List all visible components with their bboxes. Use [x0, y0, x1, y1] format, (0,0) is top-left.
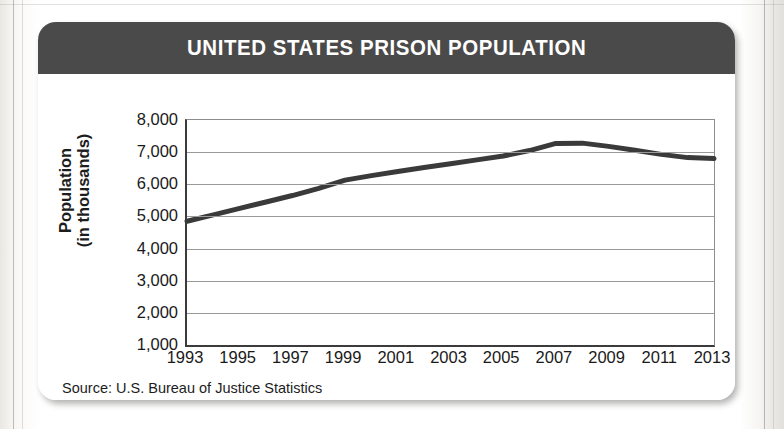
x-axis-tick-label: 2007: [536, 348, 573, 367]
chart-title: UNITED STATES PRISON POPULATION: [187, 35, 586, 61]
page-top-rule: [0, 4, 784, 5]
gridline: [187, 313, 714, 314]
page-edge-left: [13, 0, 14, 429]
chart-card: UNITED STATES PRISON POPULATION Populati…: [38, 22, 735, 400]
data-line-series: [187, 120, 714, 345]
x-axis-tick-label: 2009: [588, 348, 625, 367]
x-axis-tick-label: 2013: [694, 348, 731, 367]
y-axis-tick-label: 8,000: [100, 110, 178, 129]
y-axis-title-line-2: (in thousands): [74, 85, 92, 295]
x-axis-tick-label: 1999: [325, 348, 362, 367]
y-axis-title-line-1: Population: [56, 85, 74, 295]
y-axis-tick-label: 3,000: [100, 270, 178, 289]
gridline: [187, 281, 714, 282]
y-axis-tick-label: 5,000: [100, 206, 178, 225]
plot-wrapper: Population (in thousands) 8,0007,0006,00…: [38, 74, 735, 400]
x-axis-tick-label: 2003: [430, 348, 467, 367]
y-axis-title: Population (in thousands): [56, 85, 93, 295]
x-axis-tick-labels: 1993199519971999200120032005200720092011…: [185, 348, 712, 372]
prison-population-line: [187, 143, 714, 221]
x-axis-tick-label: 1993: [167, 348, 204, 367]
chart-header-bar: UNITED STATES PRISON POPULATION: [38, 22, 735, 74]
chart-body: Population (in thousands) 8,0007,0006,00…: [38, 74, 735, 400]
gridline: [187, 152, 714, 153]
x-axis-tick-label: 2005: [483, 348, 520, 367]
page-edge-right-secondary: [773, 0, 774, 429]
source-note: Source: U.S. Bureau of Justice Statistic…: [62, 380, 322, 396]
x-axis-tick-label: 2001: [377, 348, 414, 367]
y-axis-tick-labels: 8,0007,0006,0005,0004,0003,0002,0001,000: [100, 119, 178, 344]
x-axis-tick-label: 1997: [272, 348, 309, 367]
gridline: [187, 216, 714, 217]
y-axis-tick-label: 7,000: [100, 142, 178, 161]
y-axis-tick-label: 4,000: [100, 238, 178, 257]
page-edge-left-secondary: [22, 0, 23, 429]
x-axis-tick-label: 2011: [642, 348, 677, 367]
x-axis-tick-label: 1995: [219, 348, 256, 367]
plot-area: [185, 119, 715, 347]
page-edge-right: [764, 0, 765, 429]
gridline: [187, 249, 714, 250]
y-axis-tick-label: 6,000: [100, 174, 178, 193]
gridline: [187, 184, 714, 185]
y-axis-tick-label: 2,000: [100, 302, 178, 321]
